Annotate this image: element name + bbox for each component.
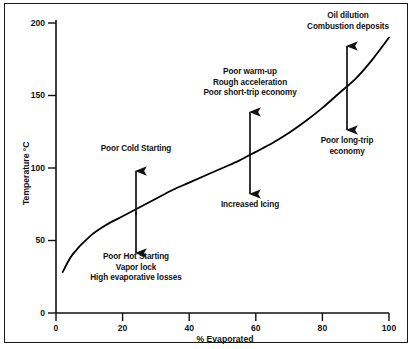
annotation-oil-dilution-line-1: Oil dilution: [285, 11, 411, 22]
annotation-poor-warm-up-line-1: Poor warm-up: [185, 67, 315, 78]
annotation-poor-hot-starting-line-3: High evaporative losses: [68, 273, 204, 284]
x-tick-label-20: 20: [109, 323, 137, 333]
annotation-poor-hot-starting-line-1: Poor Hot Starting: [68, 252, 204, 263]
y-tick-label-50: 50: [20, 235, 45, 245]
y-tick-label-200: 200: [20, 18, 45, 28]
x-axis-title: % Evaporated: [170, 334, 280, 344]
y-axis-title: Temperature °C: [21, 142, 31, 205]
annotation-poor-warm-up-line-3: Poor short-trip economy: [185, 88, 315, 99]
annotation-poor-long-trip-line-2: economy: [302, 147, 392, 158]
annotation-poor-long-trip-economy: Poor long-trip economy: [302, 136, 392, 157]
x-tick-label-60: 60: [242, 323, 270, 333]
annotation-oil-dilution-line-2: Combustion deposits: [285, 22, 411, 33]
x-tick-label-40: 40: [175, 323, 203, 333]
chart-figure: 200 150 100 50 0 0 20 40 60 80 100 % Eva…: [0, 0, 413, 349]
annotation-poor-hot-starting: Poor Hot Starting Vapor lock High evapor…: [68, 252, 204, 284]
annotation-increased-icing: Increased Icing: [206, 200, 294, 211]
annotation-poor-warm-up: Poor warm-up Rough acceleration Poor sho…: [185, 67, 315, 99]
y-tick-label-0: 0: [20, 308, 45, 318]
annotation-poor-warm-up-line-2: Rough acceleration: [185, 78, 315, 89]
annotation-poor-cold-starting: Poor Cold Starting: [82, 144, 190, 155]
annotation-poor-hot-starting-line-2: Vapor lock: [68, 263, 204, 274]
x-tick-label-0: 0: [42, 323, 70, 333]
x-tick-label-80: 80: [308, 323, 336, 333]
annotation-oil-dilution: Oil dilution Combustion deposits: [285, 11, 411, 32]
chart-plot-area: [0, 0, 413, 349]
annotation-poor-long-trip-line-1: Poor long-trip: [302, 136, 392, 147]
x-tick-label-100: 100: [375, 323, 403, 333]
y-tick-label-150: 150: [20, 90, 45, 100]
